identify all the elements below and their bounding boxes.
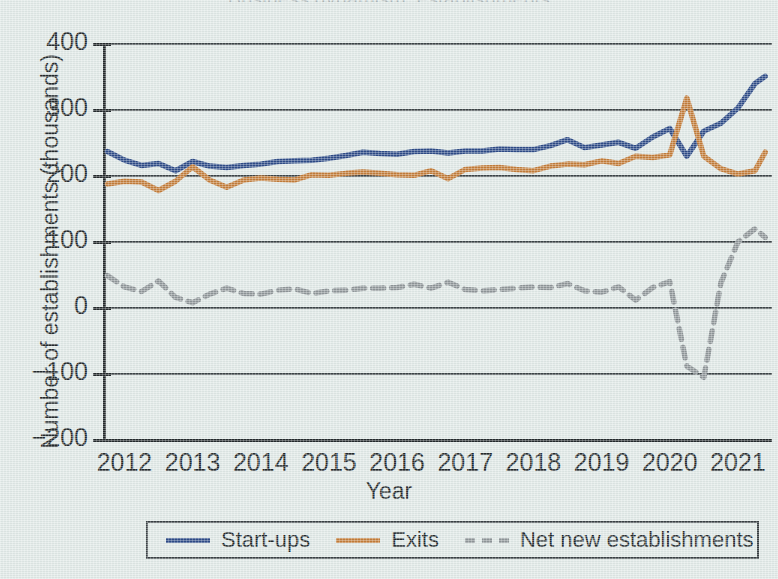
x-axis-label-wrapper: Year <box>0 478 778 505</box>
legend-entry-net-new-establishments[interactable]: Net new establishments <box>465 527 754 553</box>
x-axis-label: Year <box>366 478 412 504</box>
y-tick-label-400: 400 <box>46 27 88 56</box>
series-line-exits <box>107 98 765 190</box>
chart-legend: Start-upsExitsNet new establishments <box>146 521 759 559</box>
y-tick-label-200: 200 <box>46 159 88 188</box>
line-swatch-icon <box>336 538 380 543</box>
y-tick-label--100: −100 <box>32 357 88 386</box>
line-swatch-icon <box>166 538 210 543</box>
y-tick-label-100: 100 <box>46 225 88 254</box>
chart-figure: Business dynamism, establishments Number… <box>0 0 778 579</box>
legend-entry-exits[interactable]: Exits <box>336 527 439 553</box>
legend-label: Net new establishments <box>520 527 754 553</box>
y-tick-label-0: 0 <box>74 291 88 320</box>
x-tick-label-2021: 2021 <box>693 448 778 477</box>
legend-entry-start-ups[interactable]: Start-ups <box>166 527 310 553</box>
y-tick-label-300: 300 <box>46 93 88 122</box>
legend-label: Exits <box>391 527 439 553</box>
series-line-net-new-establishments <box>107 229 765 377</box>
dashed-line-swatch-icon <box>465 538 509 543</box>
legend-label: Start-ups <box>221 527 310 553</box>
